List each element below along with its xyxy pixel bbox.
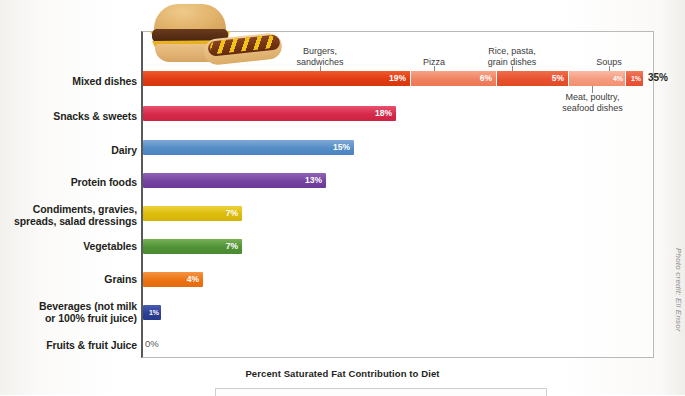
bottom-panel-edge bbox=[215, 388, 547, 396]
segment-meat-poultry-seafood[interactable]: 4% bbox=[569, 71, 625, 86]
bar-value-dairy: 15% bbox=[333, 141, 350, 154]
bar-value-snacks-sweets: 18% bbox=[375, 107, 392, 120]
callout-burgers-line2: sandwiches bbox=[296, 57, 343, 67]
segment-soups[interactable]: 1% bbox=[626, 71, 643, 86]
bar-beverages[interactable]: 1% bbox=[143, 305, 161, 320]
bar-dairy[interactable]: 15% bbox=[143, 140, 354, 155]
y-label-condiments-line1: Condiments, gravies, bbox=[3, 203, 137, 215]
segment-pizza[interactable]: 6% bbox=[411, 71, 496, 86]
bar-value-protein-foods: 13% bbox=[305, 174, 322, 187]
segment-burgers-sandwiches[interactable]: 19% bbox=[143, 71, 410, 86]
callout-meat-poultry-seafood: Meat, poultry, seafood dishes bbox=[535, 92, 650, 113]
total-value-mixed-dishes: 35% bbox=[648, 72, 668, 83]
bar-value-fruits-juice: 0% bbox=[145, 338, 159, 349]
y-label-protein-foods: Protein foods bbox=[3, 176, 137, 188]
callout-meat-line1: Meat, poultry, bbox=[566, 92, 620, 102]
bar-value-beverages: 1% bbox=[149, 306, 159, 319]
callout-burgers-line1: Burgers, bbox=[303, 46, 337, 56]
bar-value-condiments: 7% bbox=[226, 207, 238, 220]
y-label-dairy: Dairy bbox=[3, 144, 137, 156]
y-label-beverages-line1: Beverages (not milk bbox=[3, 300, 137, 312]
y-label-fruits-juice: Fruits & fruit Juice bbox=[3, 339, 137, 351]
callout-rice-line2: grain dishes bbox=[488, 57, 537, 67]
bar-grains[interactable]: 4% bbox=[143, 272, 203, 287]
bar-vegetables[interactable]: 7% bbox=[143, 239, 242, 254]
y-label-condiments-line2: spreads, salad dressings bbox=[3, 215, 137, 227]
photo-credit: Photo credit: Eli Ensor bbox=[674, 248, 683, 332]
x-axis-title: Percent Saturated Fat Contribution to Di… bbox=[0, 368, 685, 379]
callout-rice-pasta-grain: Rice, pasta, grain dishes bbox=[460, 46, 564, 67]
segment-value-meat: 4% bbox=[613, 72, 623, 85]
y-label-vegetables: Vegetables bbox=[3, 240, 137, 252]
bar-value-vegetables: 7% bbox=[226, 240, 238, 253]
segment-value-burgers: 19% bbox=[389, 72, 406, 85]
burger-hotdog-photo bbox=[146, 0, 286, 68]
y-axis-labels: Mixed dishes Snacks & sweets Dairy Prote… bbox=[0, 0, 137, 395]
callout-meat-line2: seafood dishes bbox=[562, 103, 623, 113]
bar-condiments[interactable]: 7% bbox=[143, 206, 242, 221]
bar-snacks-sweets[interactable]: 18% bbox=[143, 106, 396, 121]
bar-value-grains: 4% bbox=[187, 273, 199, 286]
y-label-grains: Grains bbox=[3, 273, 137, 285]
y-label-beverages-line2: or 100% fruit juice) bbox=[3, 312, 137, 324]
callout-rice-line1: Rice, pasta, bbox=[488, 46, 536, 56]
bar-protein-foods[interactable]: 13% bbox=[143, 173, 326, 188]
segment-value-pizza: 6% bbox=[480, 72, 492, 85]
segment-value-soups: 1% bbox=[631, 72, 641, 85]
segment-value-rice: 5% bbox=[552, 72, 564, 85]
y-label-mixed-dishes: Mixed dishes bbox=[3, 75, 137, 87]
segment-rice-pasta-grain[interactable]: 5% bbox=[497, 71, 568, 86]
y-label-snacks-sweets: Snacks & sweets bbox=[3, 110, 137, 122]
